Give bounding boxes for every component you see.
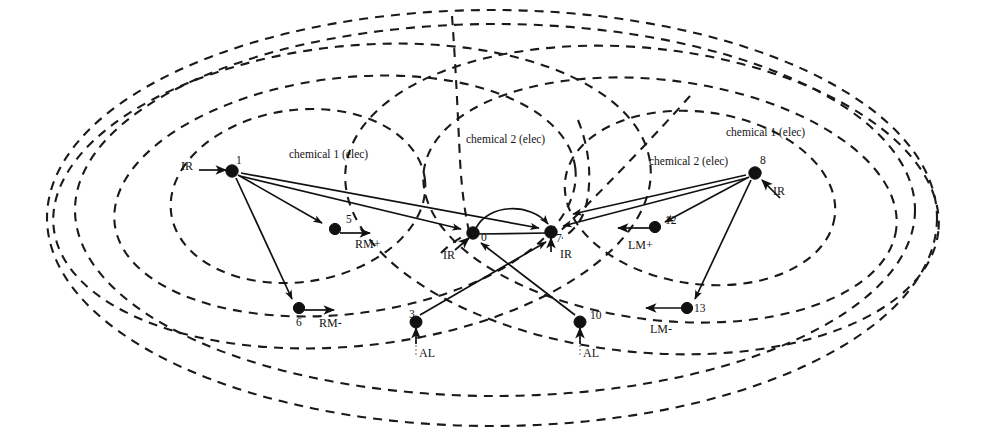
sensor-label-rmplus: RM+ — [355, 238, 380, 250]
field-ring-chem1-left-mid — [100, 51, 589, 342]
node-8[interactable] — [749, 167, 761, 179]
link-0-to-7-straight — [478, 233, 548, 234]
node-label-13: 13 — [694, 303, 706, 315]
node-label-7: 7 — [556, 233, 562, 245]
field-ring-outer-1 — [47, 10, 937, 426]
link-8-to-13 — [695, 180, 751, 299]
sensor-indicators — [199, 170, 780, 355]
sensor-label-ir-node0: IR — [443, 249, 455, 261]
chemical-field-rings — [38, 10, 954, 426]
sensor-label-ir-node7: IR — [560, 248, 572, 260]
field-label-chemical-2-right: chemical 2 (elec) — [649, 156, 728, 168]
node-label-1: 1 — [236, 155, 242, 167]
node-label-0: 0 — [481, 232, 487, 244]
node-12[interactable] — [649, 221, 660, 232]
field-ring-chem1-left-inner — [159, 93, 436, 299]
sensor-label-rmminus: RM- — [319, 317, 342, 329]
link-1-to-7 — [241, 173, 539, 228]
link-1-to-5 — [238, 175, 322, 223]
field-label-chemical-1-left: chemical 1 (elec) — [289, 149, 368, 161]
node-label-6: 6 — [296, 317, 302, 329]
field-label-chemical-1-right: chemical 1 (elec) — [726, 127, 805, 139]
node-13[interactable] — [681, 302, 692, 313]
sensor-label-lmplus: LM+ — [628, 239, 653, 251]
link-8-to-0 — [573, 175, 746, 214]
sensor-label-ir-node8: IR — [773, 185, 785, 197]
node-5[interactable] — [329, 223, 340, 234]
node-label-5: 5 — [346, 214, 352, 226]
node-label-3: 3 — [409, 309, 415, 321]
sensor-label-lmminus: LM- — [650, 323, 672, 335]
node-label-12: 12 — [665, 215, 677, 227]
node-10[interactable] — [574, 316, 586, 328]
node-label-8: 8 — [760, 155, 766, 167]
sensor-label-al-node10: AL — [583, 347, 599, 359]
diagram-canvas: 1 5 6 3 0 7 10 12 13 8 IR RM+ RM- AL IR … — [0, 0, 981, 446]
link-1-to-6 — [236, 178, 292, 299]
diagram-graphics — [0, 0, 981, 446]
node-label-10: 10 — [590, 310, 602, 322]
node-6[interactable] — [293, 302, 304, 313]
sensor-label-ir-node1: IR — [181, 160, 193, 172]
node-1[interactable] — [226, 165, 238, 177]
field-ring-chem1-left-outer — [38, 15, 666, 376]
sensor-label-al-node3: AL — [419, 347, 435, 359]
graph-links — [236, 173, 751, 315]
node-0[interactable] — [467, 227, 479, 239]
field-label-chemical-2-center: chemical 2 (elec) — [466, 134, 545, 146]
